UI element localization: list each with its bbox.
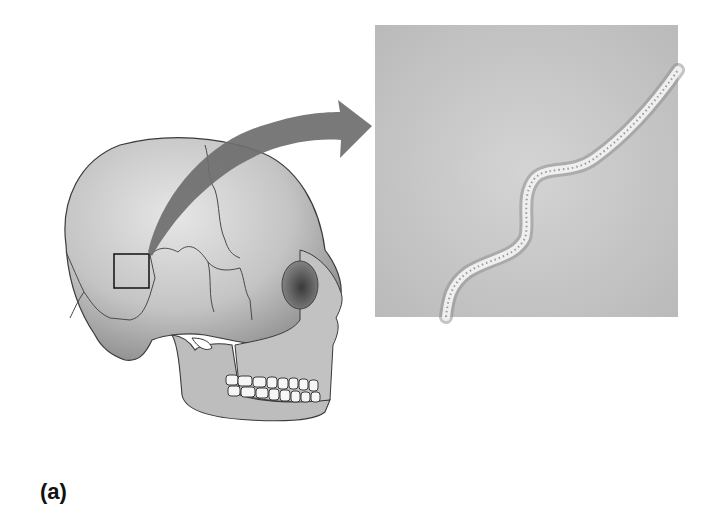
inset-background — [375, 25, 678, 317]
eye-orbit — [282, 261, 318, 309]
panel-label: (a) — [40, 479, 67, 505]
skull-suture-figure: (a) — [0, 0, 709, 529]
jaw-gap — [192, 338, 212, 350]
magnified-suture-inset — [375, 25, 678, 317]
skull-illustration — [0, 0, 709, 529]
